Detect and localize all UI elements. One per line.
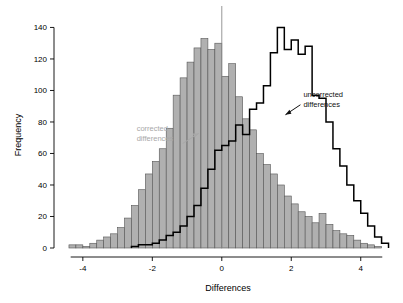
histogram-bar [229,64,236,248]
histogram-bar [354,240,361,248]
histogram-bar [340,234,347,248]
histogram-bar [215,43,222,248]
histogram-bar [277,185,284,248]
annotation-label-line2: differences [303,100,340,109]
histogram-bar [368,245,375,248]
histogram-bar [375,246,382,248]
histogram-bar [270,174,277,248]
histogram-chart: 020406080100120140-4-2024 uncorrecteddif… [0,0,403,303]
annotation-label-line2: differences [137,134,174,143]
histogram-bar [187,62,194,248]
histogram-bar [180,78,187,248]
histogram-bar [166,128,173,248]
x-axis-tick-label: 2 [289,264,294,273]
histogram-bar [257,153,264,248]
x-axis-tick-label: 0 [220,264,225,273]
x-axis-label: Differences [205,283,251,293]
y-axis-tick-label: 0 [43,244,48,253]
histogram-bar [152,161,159,248]
histogram-bar [361,243,368,248]
histogram-bar [319,213,326,248]
y-axis-tick-label: 60 [38,149,47,158]
histogram-bar [90,243,97,248]
histogram-bar [263,165,270,248]
annotation-label-line1: corrected [137,124,168,133]
histogram-bar [76,245,83,248]
histogram-bar [208,50,215,248]
y-axis-tick-label: 140 [34,23,48,32]
histogram-bar [104,237,111,248]
histogram-bar [159,149,166,248]
histogram-bar [97,240,104,248]
histogram-bar [347,235,354,248]
histogram-bar [243,119,250,248]
histogram-bar [138,190,145,248]
x-axis-tick-label: 4 [359,264,364,273]
histogram-bar [125,218,132,248]
histogram-bar [83,246,90,248]
histogram-bar [298,212,305,248]
histogram-bar [236,97,243,248]
histogram-bar [131,205,138,248]
y-axis-tick-label: 120 [34,55,48,64]
histogram-bar [291,204,298,248]
histogram-bar [111,234,118,248]
histogram-bar [284,196,291,248]
histogram-bar [305,216,312,248]
y-axis-label: Frequency [13,113,23,156]
histogram-bar [326,224,333,248]
y-axis-tick-label: 40 [38,181,47,190]
histogram-bar [201,38,208,248]
histogram-bar [250,130,257,248]
x-axis-tick-label: -4 [79,264,87,273]
histogram-bar [173,95,180,248]
x-axis-tick-label: -2 [149,264,157,273]
histogram-bar [312,223,319,248]
y-axis-tick-label: 100 [34,86,48,95]
histogram-bar [222,76,229,248]
histogram-bar [118,228,125,248]
histogram-bar [333,231,340,248]
histogram-bar [145,174,152,248]
chart-canvas: 020406080100120140-4-2024 uncorrecteddif… [0,0,403,303]
y-axis-tick-label: 20 [38,212,47,221]
histogram-bar [69,245,76,248]
histogram-bar [194,48,201,248]
annotation-label-line1: uncorrected [303,90,343,99]
y-axis-tick-label: 80 [38,118,47,127]
